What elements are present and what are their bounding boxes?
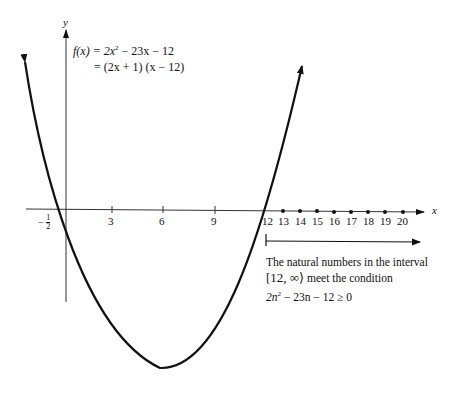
tick-label-19: 19	[380, 215, 391, 227]
tick-label-6: 6	[159, 215, 165, 227]
note-interval: [12, ∞⟩	[266, 270, 304, 285]
note3-pre: 2n	[266, 291, 278, 303]
y-axis-label: y	[63, 16, 68, 28]
interval-arrow	[266, 241, 420, 242]
tick-label-20: 20	[397, 215, 408, 227]
tick-label-14: 14	[295, 215, 306, 227]
frac-den: 2	[46, 223, 50, 231]
tick-label-neg-half: − 1 2	[38, 214, 50, 231]
x-axis	[26, 209, 424, 212]
note-line-3: 2n2 − 23n − 12 ≥ 0	[266, 286, 428, 305]
tick-label-13: 13	[278, 215, 289, 227]
tick-label-3: 3	[108, 215, 114, 227]
tick-label-15: 15	[312, 215, 323, 227]
parabola-plot	[0, 0, 462, 401]
tick-label-18: 18	[363, 215, 374, 227]
eq1-post: − 23x − 12	[119, 44, 175, 58]
note-line-2: [12, ∞⟩ meet the condition	[266, 270, 428, 286]
note-line-1: The natural numbers in the interval	[266, 254, 428, 270]
x-axis-label: x	[432, 204, 437, 216]
eq1-pre: f(x) = 2x	[73, 44, 115, 58]
note3-post: − 23n − 12 ≥ 0	[281, 291, 352, 303]
note-rest: meet the condition	[304, 272, 392, 284]
tick-label-12: 12	[262, 215, 273, 227]
tick-label-16: 16	[329, 215, 340, 227]
equation-line-2: = (2x + 1) (x − 12)	[94, 60, 184, 75]
equation-line-1: f(x) = 2x2 − 23x − 12	[73, 44, 174, 59]
tick-label-17: 17	[346, 215, 357, 227]
tick-label-9: 9	[211, 215, 217, 227]
interval-note: The natural numbers in the interval [12,…	[266, 254, 428, 305]
